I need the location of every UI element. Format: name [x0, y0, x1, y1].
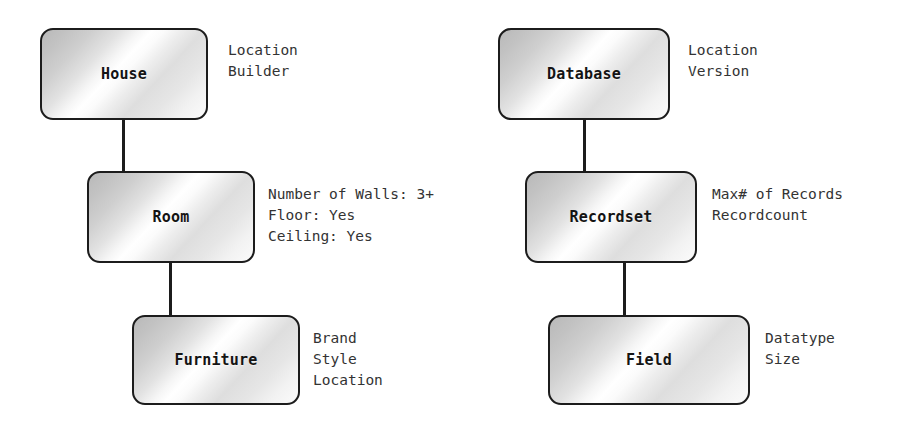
node-room[interactable]: Room	[87, 171, 255, 263]
annotation-house-line-1: Location	[228, 40, 298, 61]
annotation-furniture-line-1: Brand	[313, 328, 383, 349]
annotation-furniture: Brand Style Location	[313, 328, 383, 391]
node-furniture-label: Furniture	[174, 351, 257, 369]
annotation-database-line-1: Location	[688, 40, 758, 61]
annotation-room-line-1: Number of Walls: 3+	[268, 184, 434, 205]
connector-house-room	[122, 118, 125, 173]
connector-database-recordset	[583, 118, 586, 173]
connector-recordset-field	[623, 261, 626, 317]
annotation-room-line-2: Floor: Yes	[268, 205, 434, 226]
annotation-recordset: Max# of Records Recordcount	[712, 184, 843, 226]
annotation-field-line-2: Size	[765, 349, 835, 370]
annotation-database: Location Version	[688, 40, 758, 82]
object-hierarchy-diagram: House Location Builder Room Number of Wa…	[0, 0, 901, 432]
node-field-label: Field	[626, 351, 672, 369]
annotation-recordset-line-1: Max# of Records	[712, 184, 843, 205]
node-house-label: House	[101, 65, 147, 83]
node-database[interactable]: Database	[498, 28, 670, 120]
node-recordset-label: Recordset	[569, 208, 652, 226]
annotation-field-line-1: Datatype	[765, 328, 835, 349]
annotation-room-line-3: Ceiling: Yes	[268, 226, 434, 247]
annotation-furniture-line-3: Location	[313, 370, 383, 391]
connector-room-furniture	[169, 261, 172, 317]
annotation-room: Number of Walls: 3+ Floor: Yes Ceiling: …	[268, 184, 434, 247]
annotation-field: Datatype Size	[765, 328, 835, 370]
node-furniture[interactable]: Furniture	[132, 315, 300, 405]
node-recordset[interactable]: Recordset	[525, 171, 697, 263]
node-house[interactable]: House	[40, 28, 208, 120]
annotation-house-line-2: Builder	[228, 61, 298, 82]
node-field[interactable]: Field	[548, 315, 750, 405]
node-room-label: Room	[153, 208, 190, 226]
annotation-database-line-2: Version	[688, 61, 758, 82]
annotation-recordset-line-2: Recordcount	[712, 205, 843, 226]
annotation-furniture-line-2: Style	[313, 349, 383, 370]
annotation-house: Location Builder	[228, 40, 298, 82]
node-database-label: Database	[547, 65, 621, 83]
